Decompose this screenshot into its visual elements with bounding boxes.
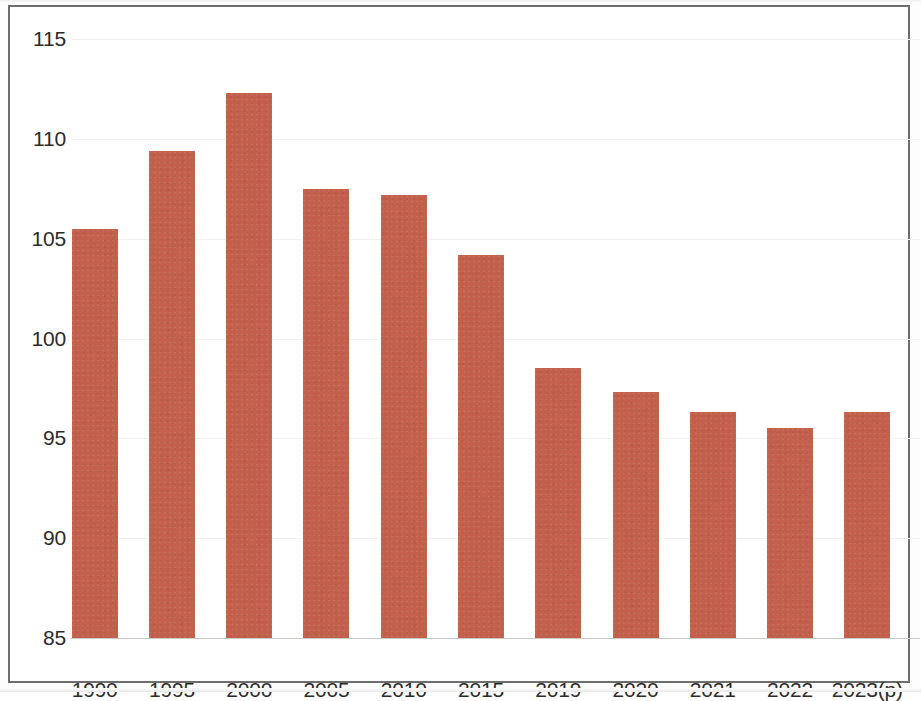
y-tick-label-105: 105 (14, 228, 66, 249)
gridline-105 (70, 239, 920, 240)
scan-edge-bottom (0, 688, 921, 692)
bar-2020 (613, 392, 659, 638)
bar-2022 (767, 428, 813, 638)
y-tick-label-90: 90 (14, 527, 66, 548)
bar-2000 (226, 93, 272, 638)
bar-2021 (690, 412, 736, 638)
bar-1990 (72, 229, 118, 638)
bar-2015 (458, 255, 504, 638)
y-tick-label-115: 115 (14, 28, 66, 49)
y-tick-label-85: 85 (14, 627, 66, 648)
bar-2010 (381, 195, 427, 638)
bar-1995 (149, 151, 195, 638)
plot-area: 1990199520002005201020152019202020212022… (70, 39, 920, 638)
scan-edge-top (0, 0, 921, 3)
gridline-110 (70, 139, 920, 140)
bar-2019 (535, 368, 581, 638)
y-tick-label-110: 110 (14, 128, 66, 149)
bar-2023(p) (844, 412, 890, 638)
y-axis: 859095100105110115 (10, 39, 66, 638)
gridline-115 (70, 39, 920, 40)
x-axis-baseline (70, 638, 920, 639)
y-tick-label-95: 95 (14, 427, 66, 448)
y-tick-label-100: 100 (14, 328, 66, 349)
chart-plot-frame: 859095100105110115 199019952000200520102… (8, 5, 910, 683)
bar-2005 (303, 189, 349, 638)
